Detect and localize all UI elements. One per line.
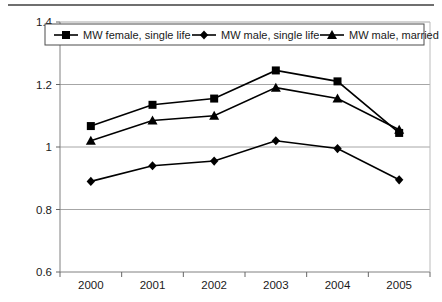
y-axis-ticks <box>56 22 60 272</box>
square-marker-icon <box>334 77 342 85</box>
square-marker-icon <box>272 66 280 74</box>
x-tick-label: 2005 <box>386 279 412 291</box>
square-marker-icon <box>149 101 157 109</box>
x-tick-label: 2002 <box>201 279 227 291</box>
x-axis-tick-labels: 200020012002200320042005 <box>78 279 412 291</box>
y-tick-label: 0.6 <box>36 266 52 278</box>
y-axis-tick-labels: 0.60.811.21.4 <box>36 16 53 278</box>
square-marker-icon <box>62 31 70 39</box>
x-tick-label: 2004 <box>325 279 351 291</box>
x-axis-ticks <box>60 272 430 277</box>
y-tick-label: 0.8 <box>36 204 52 216</box>
legend-label: MW female, single life <box>83 29 191 41</box>
chart-legend: MW female, single lifeMW male, single li… <box>45 24 439 45</box>
x-tick-label: 2001 <box>140 279 166 291</box>
legend-label: MW male, single life <box>221 29 319 41</box>
x-tick-label: 2003 <box>263 279 289 291</box>
x-tick-label: 2000 <box>78 279 104 291</box>
legend-label: MW male, married <box>349 29 439 41</box>
square-marker-icon <box>87 122 95 130</box>
square-marker-icon <box>210 95 218 103</box>
line-chart: 0.60.811.21.4 200020012002200320042005 M… <box>0 0 442 302</box>
legend-entries: MW female, single lifeMW male, single li… <box>54 29 439 41</box>
y-tick-label: 1 <box>46 141 52 153</box>
y-tick-label: 1.2 <box>36 79 52 91</box>
chart-container: 0.60.811.21.4 200020012002200320042005 M… <box>0 0 442 302</box>
